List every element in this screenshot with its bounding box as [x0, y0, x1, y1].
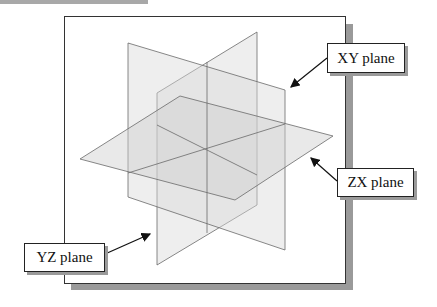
xy-plane-label: XY plane [327, 43, 405, 73]
yz-plane-label: YZ plane [24, 243, 105, 272]
xy-arrow-icon [291, 58, 327, 87]
yz-arrow-icon [105, 234, 150, 254]
zx-plane-label: ZX plane [337, 168, 414, 197]
zx-plane [80, 96, 333, 200]
zx-arrow-icon [311, 158, 337, 181]
